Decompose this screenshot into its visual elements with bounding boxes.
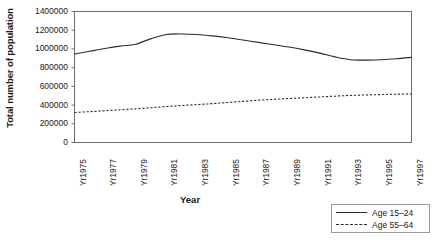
- line-chart: Total number of population 0200000400000…: [0, 0, 436, 240]
- legend-item-label: Age 55–64: [372, 221, 413, 230]
- x-axis-tick-label: Yr1995: [385, 159, 394, 186]
- x-axis-tick-label: Yr1991: [324, 159, 333, 186]
- x-axis-tick-label: Yr1975: [79, 159, 88, 186]
- legend-item-label: Age 15–24: [372, 209, 413, 218]
- legend-line-solid-icon: [336, 212, 367, 214]
- legend-line-dashed-icon: [336, 224, 367, 226]
- x-axis-tick-label: Yr1993: [354, 159, 363, 186]
- x-axis-tick-label: Yr1997: [416, 159, 425, 186]
- x-axis-tick-label: Yr1979: [140, 159, 149, 186]
- x-axis-tick-label: Yr1985: [232, 159, 241, 186]
- x-axis-tick-label: Yr1977: [109, 159, 118, 186]
- x-axis-tick-label: Yr1987: [262, 159, 271, 186]
- legend-item: Age 15–24: [336, 207, 425, 219]
- legend: Age 15–24 Age 55–64: [331, 204, 430, 233]
- x-axis-title: Year: [180, 194, 200, 205]
- x-axis-tick-label: Yr1983: [201, 159, 210, 186]
- legend-item: Age 55–64: [336, 219, 425, 231]
- x-axis-tick-label: Yr1989: [293, 159, 302, 186]
- x-axis-tick-label: Yr1981: [170, 159, 179, 186]
